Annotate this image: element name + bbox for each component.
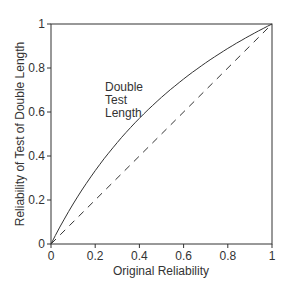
x-tick-label: 0.6 xyxy=(175,249,192,263)
y-tick-label: 0.4 xyxy=(28,149,45,163)
x-axis-label: Original Reliability xyxy=(113,264,209,278)
x-tick-label: 0.8 xyxy=(219,249,236,263)
reliability-chart: 00.20.40.60.81 00.20.40.60.81 Double Tes… xyxy=(0,0,286,287)
y-tick-label: 0.6 xyxy=(28,105,45,119)
x-tick-label: 1 xyxy=(269,249,276,263)
y-axis-label: Reliability of Test of Double Length xyxy=(13,42,27,227)
y-tick-label: 0.2 xyxy=(28,193,45,207)
identity-dashed-line xyxy=(51,24,272,244)
y-axis-ticks: 00.20.40.60.81 xyxy=(28,17,51,251)
annotation-line-3: Length xyxy=(105,106,142,120)
x-axis-ticks: 00.20.40.60.81 xyxy=(48,244,276,263)
y-tick-label: 1 xyxy=(38,17,45,31)
annotation-line-1: Double xyxy=(105,80,143,94)
x-tick-label: 0.4 xyxy=(131,249,148,263)
y-tick-label: 0 xyxy=(38,237,45,251)
y-tick-label: 0.8 xyxy=(28,61,45,75)
x-tick-label: 0.2 xyxy=(87,249,104,263)
x-tick-label: 0 xyxy=(48,249,55,263)
annotation-line-2: Test xyxy=(105,93,128,107)
